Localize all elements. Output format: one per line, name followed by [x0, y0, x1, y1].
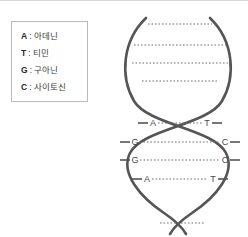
base-label-left-1: A	[150, 118, 156, 128]
helix-strand-front	[125, 18, 228, 234]
base-pair-rung-3: G C	[120, 155, 240, 165]
dna-diagram-page: A : 아데닌 T : 티민 G : 구아닌 C : 사이토신	[0, 0, 248, 237]
legend-code-c: C	[21, 82, 27, 92]
base-label-right-4: T	[210, 174, 216, 184]
legend-separator: :	[29, 82, 31, 92]
legend-item-thymine: T : 티민	[21, 46, 87, 63]
legend-name-adenine: 아데닌	[34, 29, 58, 41]
base-legend-box: A : 아데닌 T : 티민 G : 구아닌 C : 사이토신	[11, 21, 88, 102]
base-pair-rung-2: G C	[120, 137, 240, 147]
legend-name-thymine: 티민	[33, 46, 49, 58]
legend-separator: :	[30, 65, 32, 75]
base-label-right-1: T	[204, 118, 210, 128]
base-label-right-3: C	[222, 155, 229, 165]
legend-name-cytosine: 사이토신	[34, 80, 66, 92]
legend-code-g: G	[21, 65, 28, 75]
legend-name-guanine: 구아닌	[34, 63, 58, 75]
base-label-left-2: G	[131, 137, 138, 147]
legend-item-guanine: G : 구아닌	[21, 63, 87, 80]
base-pair-rung-4: A T	[132, 174, 228, 184]
legend-separator: :	[29, 31, 31, 41]
base-label-right-2: C	[222, 137, 229, 147]
legend-separator: :	[28, 48, 30, 58]
legend-code-t: T	[21, 48, 26, 58]
legend-item-cytosine: C : 사이토신	[21, 80, 87, 97]
legend-item-adenine: A : 아데닌	[21, 29, 87, 46]
base-label-left-4: A	[144, 174, 150, 184]
base-label-left-3: G	[131, 155, 138, 165]
legend-code-a: A	[21, 31, 27, 41]
helix-strand-group	[125, 18, 230, 234]
dna-double-helix: A T G C G C A T	[112, 1, 248, 237]
